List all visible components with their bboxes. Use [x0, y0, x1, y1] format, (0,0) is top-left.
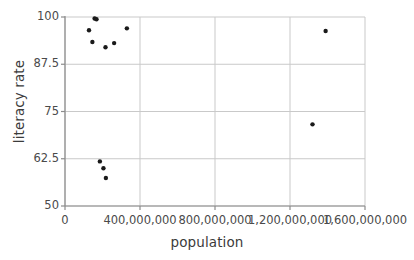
x-tick-label: 1,200,000,000 [248, 213, 332, 227]
data-point [112, 41, 116, 45]
data-point [87, 28, 91, 32]
x-tick-label: 1,600,000,000 [323, 213, 407, 227]
y-tick-label: 50 [13, 198, 59, 212]
x-axis-title: population [0, 232, 414, 251]
x-tick-label: 0 [61, 213, 68, 227]
gridlines [65, 17, 365, 206]
data-point [101, 166, 105, 170]
data-point [90, 40, 94, 44]
y-axis-title: literacy rate [9, 37, 28, 167]
data-point [104, 176, 108, 180]
data-point [323, 29, 327, 33]
x-axis-title-text: population [171, 234, 244, 250]
data-points [87, 16, 328, 180]
scatter-chart: 5062.57587.5100 0400,000,000800,000,0001… [0, 0, 414, 260]
data-point [310, 122, 314, 126]
x-tick-label: 400,000,000 [103, 213, 176, 227]
y-axis-title-text: literacy rate [11, 60, 27, 143]
data-point [103, 45, 107, 49]
data-point [94, 17, 98, 21]
data-point [125, 26, 129, 30]
x-tick-label: 800,000,000 [178, 213, 251, 227]
data-point [98, 159, 102, 163]
y-tick-label: 100 [13, 9, 59, 23]
